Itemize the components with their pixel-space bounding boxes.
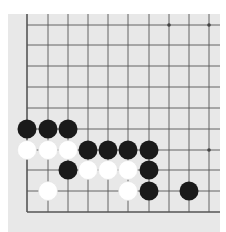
star-point (207, 148, 211, 152)
white-stone[interactable] (79, 161, 98, 180)
white-stone[interactable] (119, 182, 138, 201)
star-point (207, 23, 211, 27)
black-stone[interactable] (59, 120, 78, 139)
white-stone[interactable] (119, 161, 138, 180)
black-stone[interactable] (140, 182, 159, 201)
black-stone[interactable] (79, 141, 98, 160)
black-stone[interactable] (99, 141, 118, 160)
black-stone[interactable] (39, 120, 58, 139)
white-stone[interactable] (59, 141, 78, 160)
white-stone[interactable] (39, 141, 58, 160)
white-stone[interactable] (99, 161, 118, 180)
star-point (167, 23, 171, 27)
white-stone[interactable] (39, 182, 58, 201)
black-stone[interactable] (119, 141, 138, 160)
black-stone[interactable] (59, 161, 78, 180)
white-stone[interactable] (18, 141, 37, 160)
black-stone[interactable] (140, 141, 159, 160)
black-stone[interactable] (18, 120, 37, 139)
black-stone[interactable] (180, 182, 199, 201)
black-stone[interactable] (140, 161, 159, 180)
go-board-grid[interactable] (0, 0, 226, 232)
